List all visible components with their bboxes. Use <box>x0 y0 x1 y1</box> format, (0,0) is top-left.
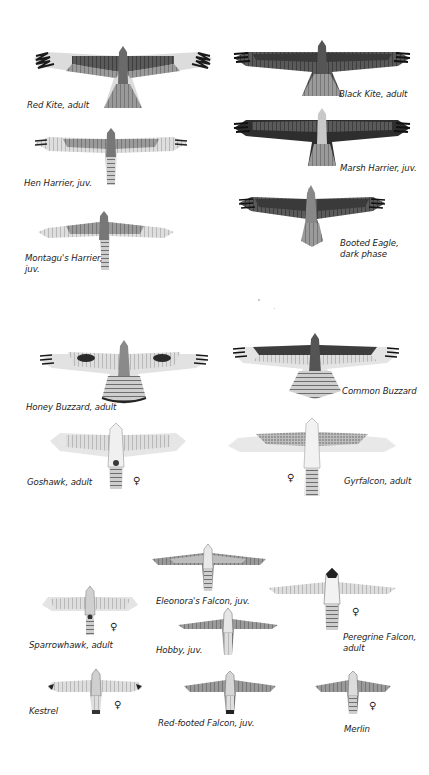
marsh-harrier-illustration <box>232 108 412 170</box>
honey-buzzard-label: Honey Buzzard, adult <box>26 402 116 413</box>
marsh-harrier-label: Marsh Harrier, juv. <box>340 163 417 174</box>
female-symbol: ♀ <box>114 700 121 710</box>
honey-buzzard-illustration <box>38 340 210 404</box>
female-symbol: ♀ <box>287 473 294 483</box>
sparrowhawk-illustration <box>40 585 140 635</box>
female-symbol: ♀ <box>352 607 359 617</box>
red-footed-falcon-label: Red-footed Falcon, juv. <box>158 718 254 729</box>
red-footed-falcon-illustration <box>182 670 278 714</box>
peregrine-falcon-label-line2: adult <box>343 643 364 654</box>
female-symbol: ♀ <box>133 476 140 486</box>
booted-eagle-label-line1: Booted Eagle, <box>340 238 399 249</box>
montagus-harrier-label-line1: Montagu's Harrier, <box>25 253 102 264</box>
peregrine-falcon-label-line1: Peregrine Falcon, <box>343 632 416 643</box>
goshawk-label: Goshawk, adult <box>27 477 92 488</box>
female-symbol: ♀ <box>369 701 376 711</box>
merlin-label: Merlin <box>344 724 370 735</box>
hen-harrier-illustration <box>33 127 189 185</box>
print-speck <box>274 308 275 309</box>
red-kite-label: Red Kite, adult <box>27 100 89 111</box>
raptor-flight-plate: Red Kite, adult Black Kite, adult Hen Ha… <box>0 0 429 775</box>
hobby-label: Hobby, juv. <box>156 645 202 656</box>
eleonoras-falcon-illustration <box>150 543 268 591</box>
print-speck <box>258 299 260 301</box>
sparrowhawk-label: Sparrowhawk, adult <box>29 640 113 651</box>
merlin-illustration <box>313 670 393 714</box>
kestrel-label: Kestrel <box>29 706 58 717</box>
peregrine-falcon-illustration <box>266 566 398 630</box>
female-symbol: ♀ <box>110 622 117 632</box>
eleonoras-falcon-label: Eleonora's Falcon, juv. <box>156 596 250 607</box>
black-kite-label: Black Kite, adult <box>339 89 407 100</box>
common-buzzard-label: Common Buzzard <box>342 386 417 397</box>
gyrfalcon-label: Gyrfalcon, adult <box>344 476 411 487</box>
hen-harrier-label: Hen Harrier, juv. <box>24 178 92 189</box>
kestrel-illustration <box>46 668 144 714</box>
montagus-harrier-label-line2: juv. <box>25 264 40 275</box>
booted-eagle-label-line2: dark phase <box>340 249 387 260</box>
